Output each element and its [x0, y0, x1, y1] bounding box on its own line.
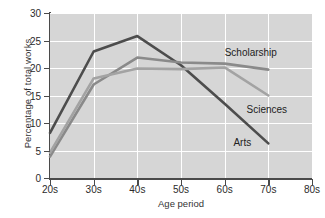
x-axis-tick-label: 20s	[30, 184, 70, 195]
x-axis-tick-label: 60s	[205, 184, 245, 195]
y-axis-tick	[44, 13, 50, 14]
x-axis-tick-label: 80s	[292, 184, 325, 195]
y-axis-tick-label: 10	[1, 118, 41, 129]
x-axis-tick-label: 30s	[74, 184, 114, 195]
annotation-scholarship: Scholarship	[225, 47, 277, 58]
y-axis-tick	[44, 41, 50, 42]
line-chart-figure: Percentage of total works 051015202530 2…	[0, 0, 325, 218]
y-axis-tick	[44, 96, 50, 97]
series-lines	[50, 13, 312, 178]
y-axis-tick-label: 25	[1, 35, 41, 46]
gridline-vertical	[312, 13, 313, 178]
x-axis-tick-label: 70s	[248, 184, 288, 195]
annotation-sciences: Sciences	[247, 103, 288, 114]
annotation-arts: Arts	[233, 136, 251, 147]
y-axis-tick-label: 0	[1, 173, 41, 184]
x-axis-tick-label: 50s	[161, 184, 201, 195]
y-axis-tick-label: 5	[1, 145, 41, 156]
y-axis-tick-label: 15	[1, 90, 41, 101]
plot-area	[50, 13, 312, 178]
y-axis-tick	[44, 123, 50, 124]
y-axis-tick	[44, 68, 50, 69]
y-axis-tick-label: 30	[1, 8, 41, 19]
y-axis-tick-label: 20	[1, 63, 41, 74]
x-axis-title: Age period	[50, 198, 312, 209]
y-axis-tick	[44, 151, 50, 152]
x-axis-tick-label: 40s	[117, 184, 157, 195]
